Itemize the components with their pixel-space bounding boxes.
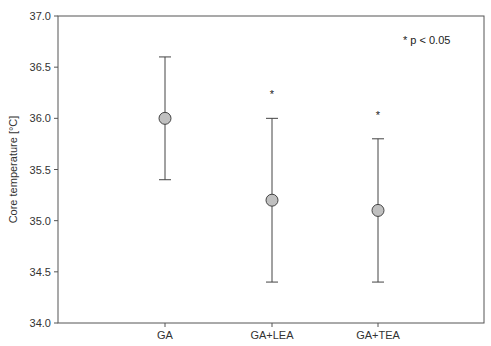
mean-marker — [159, 112, 171, 124]
y-tick-label: 36.0 — [30, 112, 51, 124]
y-tick-label: 37.0 — [30, 10, 51, 22]
mean-marker — [372, 204, 384, 216]
x-category-label: GA — [157, 329, 174, 341]
significance-marker: * — [376, 109, 381, 121]
y-tick-label: 34.5 — [30, 266, 51, 278]
mean-marker — [266, 194, 278, 206]
y-tick-label: 34.0 — [30, 317, 51, 329]
chart: 34.034.535.035.536.036.537.0Core tempera… — [0, 0, 491, 346]
y-tick-label: 36.5 — [30, 61, 51, 73]
x-category-label: GA+TEA — [356, 329, 400, 341]
y-tick-label: 35.0 — [30, 215, 51, 227]
significance-note: * p < 0.05 — [403, 34, 450, 46]
y-tick-label: 35.5 — [30, 164, 51, 176]
significance-marker: * — [270, 88, 275, 100]
x-category-label: GA+LEA — [250, 329, 294, 341]
y-axis-title: Core temperature [°C] — [7, 116, 19, 224]
plot-frame — [58, 16, 484, 323]
